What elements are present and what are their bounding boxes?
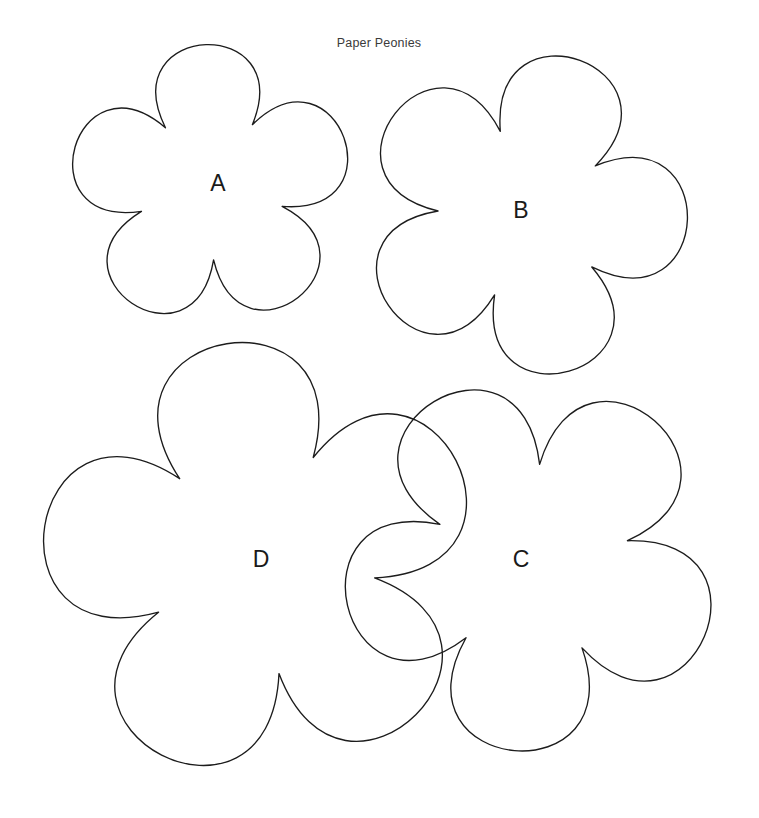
page-title: Paper Peonies [337, 36, 422, 50]
flower-label-a: A [210, 170, 226, 196]
flower-label-b: B [513, 197, 528, 223]
flower-label-d: D [253, 546, 270, 572]
flower-label-c: C [513, 546, 530, 572]
template-page: ABCD Paper Peonies [0, 0, 759, 818]
flower-template-c[interactable]: C [345, 390, 711, 751]
flower-shapes-group: ABCD [44, 45, 711, 766]
flower-template-a[interactable]: A [73, 45, 348, 314]
flower-template-b[interactable]: B [376, 56, 687, 374]
flower-template-sheet: ABCD Paper Peonies [0, 0, 759, 818]
flower-template-d[interactable]: D [44, 343, 467, 766]
flower-outline-b [376, 56, 687, 374]
